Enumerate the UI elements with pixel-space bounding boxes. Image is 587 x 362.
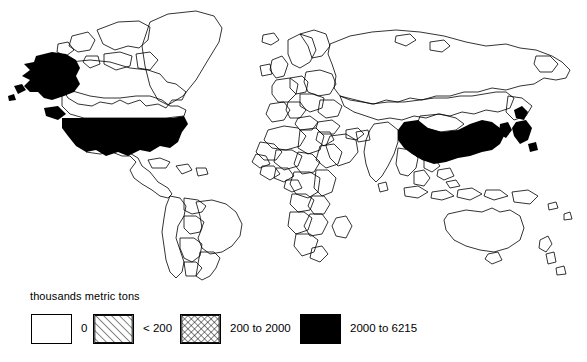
legend-entry-2000-6215: 2000 to 6215: [300, 313, 417, 345]
legend-entries: 0 < 200 200 to 2000 2000 to 6215: [0, 313, 587, 353]
region-south-america-west: [162, 196, 206, 278]
legend-label-200-2000: 200 to 2000: [230, 323, 291, 335]
region-russia: [328, 30, 570, 120]
region-pacific-islands: [548, 202, 572, 275]
region-mexico-central-america: [86, 148, 208, 198]
legend-title: thousands metric tons: [30, 290, 140, 302]
legend-label-under-200: < 200: [143, 323, 172, 335]
legend-swatch-diagonal: [93, 314, 134, 344]
region-british-isles: [260, 56, 288, 78]
region-central-europe: [286, 70, 342, 134]
legend-label-2000-6215: 2000 to 6215: [350, 323, 417, 335]
world-map-svg: [0, 0, 587, 285]
region-brazil: [196, 200, 242, 254]
legend-entry-zero: 0: [31, 313, 87, 345]
region-papua-new-guinea: [512, 190, 538, 204]
legend-swatch-none: [31, 314, 72, 344]
map-legend: thousands metric tons 0 < 200 200 to 200…: [0, 285, 587, 362]
world-map-figure: thousands metric tons 0 < 200 200 to 200…: [0, 0, 587, 362]
legend-entry-200-2000: 200 to 2000: [180, 313, 291, 345]
legend-swatch-solid: [300, 314, 341, 344]
region-greenland: [142, 11, 222, 105]
region-japan: [512, 106, 538, 152]
region-alaska: [8, 52, 80, 101]
region-united-states: [44, 106, 188, 156]
legend-label-zero: 0: [81, 323, 87, 335]
region-west-africa: [252, 154, 302, 192]
map-canvas: [0, 0, 587, 285]
region-australia: [444, 208, 524, 264]
region-central-africa: [290, 170, 336, 214]
legend-swatch-crosshatch: [180, 314, 221, 344]
region-southern-africa: [288, 212, 352, 262]
region-china: [398, 120, 504, 164]
region-north-africa: [256, 126, 342, 174]
region-iceland-scandinavia: [262, 30, 330, 68]
legend-entry-under-200: < 200: [93, 313, 172, 345]
region-new-zealand: [539, 236, 556, 264]
